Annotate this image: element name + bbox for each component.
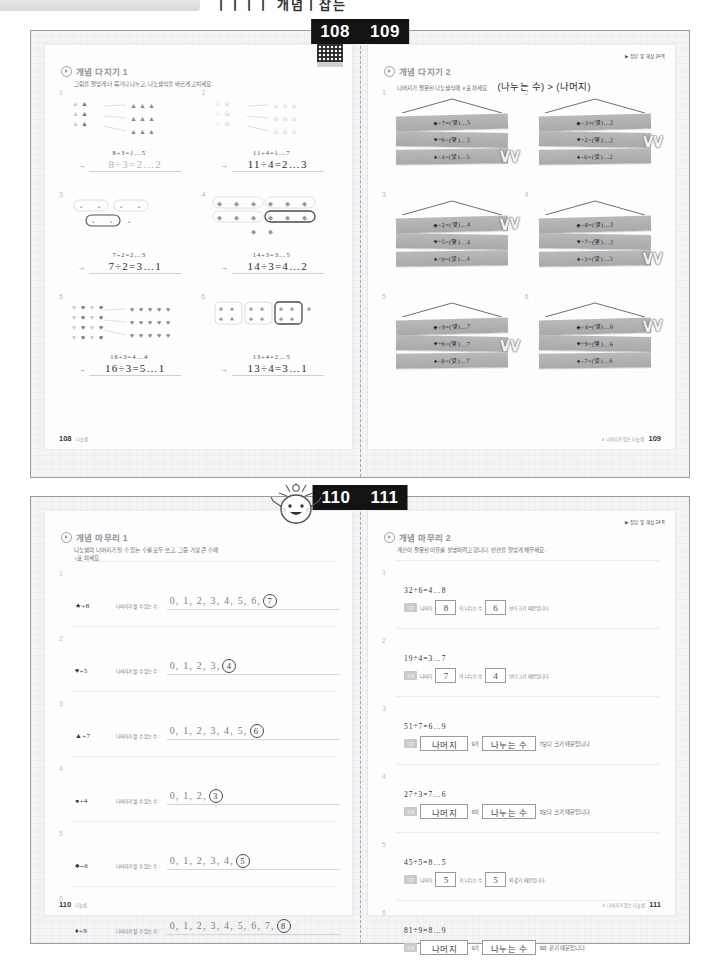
answer-field[interactable]: 0, 1, 2, 3, 4, 5, 6, 7 <box>167 594 340 610</box>
reason-tag: 이유 <box>404 603 417 612</box>
svg-text:▪: ▪ <box>80 204 82 210</box>
circled-answer[interactable]: 6 <box>250 724 264 738</box>
instruction-line-1: 나눗셈의 나머지가 될 수 있는 수를 모두 쓰고, 그중 가장 큰 수에 <box>74 546 340 554</box>
signboard-plank[interactable]: ♦÷8=(몇)…7 <box>396 352 508 369</box>
signboard-plank[interactable]: ♥÷6=(몇)…7∨∨ <box>396 335 508 352</box>
signboard-plank[interactable]: ♣÷8=(몇)…3 <box>539 215 651 233</box>
division-equation: 81÷9=8…9 <box>404 926 663 935</box>
corrected-equation-answer[interactable]: 7÷2=3…1 <box>89 260 181 274</box>
svg-text:☆: ☆ <box>215 110 221 117</box>
corrected-equation-answer[interactable]: 16÷3=5…1 <box>89 362 181 376</box>
reason-text: 나머지 <box>420 876 432 883</box>
circled-answer[interactable]: 4 <box>222 659 236 673</box>
signboard-plank[interactable]: ♦÷6=(몇)…2 <box>539 148 651 165</box>
signboard-plank[interactable]: ♣÷2=(몇)…4∨∨ <box>396 215 508 233</box>
svg-text:▲: ▲ <box>130 115 137 122</box>
given-equation: 7÷2=2…3 <box>63 251 196 258</box>
problem-cell: 3 ♣÷2=(몇)…4∨∨♥÷5=(몇)…4♦÷9=(몇)…4 <box>380 189 523 291</box>
check-mark-icon[interactable]: ∨∨ <box>498 146 518 165</box>
figure[interactable]: ☆☆☆☆☆☆☆☆☆☆☆☆☆☆☆ <box>206 91 339 149</box>
signboard-plank[interactable]: ♣÷7=(몇)…5 <box>396 113 508 131</box>
svg-text:◆: ◆ <box>285 200 290 207</box>
problem-row: 5 45÷5=8…5 이유 나머지5가 나누는 수5와 같기 때문입니다. <box>382 829 663 897</box>
corrected-equation-answer[interactable]: 13÷4=3…1 <box>232 362 324 376</box>
mascot-character-icon <box>270 479 322 527</box>
answer-field[interactable]: 0, 1, 2, 3, 4, 5, 6, 7, 8 <box>167 919 340 935</box>
given-equation: 13÷4=2…5 <box>206 353 339 360</box>
reason-row: 이유 나머지8이 나누는 수6보다 크기 때문입니다. <box>404 600 663 615</box>
problem-number: 1 <box>59 570 63 577</box>
answer-field[interactable]: 0, 1, 2, 3, 4, 5 <box>167 854 340 870</box>
signboard-plank[interactable]: ♦÷3=(몇)…3∨∨ <box>539 250 651 267</box>
problem-number: 4 <box>59 765 63 772</box>
svg-text:♥: ♥ <box>130 319 134 326</box>
circled-answer[interactable]: 8 <box>277 919 291 933</box>
check-mark-icon[interactable]: ∨∨ <box>641 248 661 267</box>
signboard-plank[interactable]: ♣÷9=(몇)…7 <box>396 317 508 335</box>
svg-text:◆: ◆ <box>268 228 273 235</box>
circled-answer[interactable]: 5 <box>236 854 250 868</box>
answer-blank[interactable]: 나머지 <box>420 940 468 955</box>
svg-text:☆: ☆ <box>282 102 288 109</box>
svg-text:▲: ▲ <box>148 102 155 109</box>
signboard-plank[interactable]: ♥÷6=(몇)…5 <box>396 131 508 148</box>
svg-text:◆: ◆ <box>234 214 239 221</box>
figure[interactable]: ▪▪▪▪▪▪▪ <box>63 193 196 251</box>
signboard-plank[interactable]: ♥÷5=(몇)…4 <box>396 233 508 250</box>
page-108: 개념 다지기 1 그림을 알맞게 더 묶거나 나누고, 나눗셈식을 바르게 고치… <box>45 45 352 449</box>
svg-text:◆: ◆ <box>268 214 273 221</box>
check-mark-icon[interactable]: ∨∨ <box>498 213 519 233</box>
answer-blank[interactable]: 5 <box>435 872 456 887</box>
section-title: 개념 다지기 1 <box>76 65 128 77</box>
answer-blank[interactable]: 나머지 <box>420 736 468 751</box>
signboard-plank[interactable]: ♣÷4=(몇)…6∨∨ <box>539 317 651 335</box>
signboard-roof <box>539 301 651 317</box>
answer-blank[interactable]: 4 <box>485 668 506 683</box>
answer-blank[interactable]: 나누는 수 <box>482 736 536 751</box>
signboard-plank[interactable]: ♦÷4=(몇)…5∨∨ <box>396 148 508 165</box>
figure[interactable]: ◆◆◆◆◆◆◆◆◆◆◆◆◆◆ <box>206 193 339 251</box>
svg-text:♥: ♥ <box>148 332 152 339</box>
reason-text: 9와 같기 때문입니다. <box>539 944 587 952</box>
svg-text:☆: ☆ <box>215 120 221 127</box>
signboard-plank[interactable]: ♦÷9=(몇)…4 <box>396 250 508 267</box>
row-divider <box>396 628 659 629</box>
answer-field[interactable]: 0, 1, 2, 3 <box>167 789 340 805</box>
signboard-plank[interactable]: ♥÷9=(몇)…6 <box>539 335 651 352</box>
spread-108-109: 108 109 개념 다지기 1 그림을 알맞게 더 묶거나 나누고, 나눗셈식… <box>30 30 690 478</box>
corrected-equation-answer[interactable]: 11÷4=2…3 <box>232 158 324 172</box>
signboard-plank[interactable]: ♣÷3=(몇)…2 <box>539 113 651 131</box>
figure[interactable]: ▲▲▲▲▲▲▲▲▲▲▲▲▲▲▲ <box>63 91 196 149</box>
answer-blank[interactable]: 7 <box>435 668 456 683</box>
figure[interactable]: ♥♥♥♥♥♥♥♥♥♥♥♥♥♥♥♥♥♥♥♥♥♥♥♥♥♥♥♥♥♥♥ <box>63 295 196 353</box>
answer-field[interactable]: 0, 1, 2, 3, 4, 5, 6 <box>167 724 340 740</box>
corrected-equation-answer[interactable]: 14÷3=4…2 <box>232 260 324 274</box>
svg-text:◆: ◆ <box>217 200 222 207</box>
answer-blank[interactable]: 나누는 수 <box>482 804 536 819</box>
signboard-plank[interactable]: ♥÷7=(몇)…3 <box>539 233 651 250</box>
answer-row: →11÷4=2…3 <box>206 158 339 172</box>
signboard-plank[interactable]: ♥÷2=(몇)…2∨∨ <box>539 131 651 148</box>
svg-text:▲: ▲ <box>81 100 88 107</box>
row-divider <box>73 561 336 562</box>
corrected-equation-answer[interactable]: 8÷3=2…2 <box>89 158 181 172</box>
circled-answer[interactable]: 7 <box>263 594 277 608</box>
signboard-plank[interactable]: ♦÷7=(몇)…6 <box>539 352 651 369</box>
figure[interactable]: ♣♣♣♣♣♣♣♣♣♣♣♣♣ <box>206 295 339 353</box>
problem-cell: 1 ♣÷7=(몇)…5♥÷6=(몇)…5♦÷4=(몇)…5∨∨ <box>380 87 523 189</box>
circled-answer[interactable]: 3 <box>209 789 223 803</box>
division-equation: 45÷5=8…5 <box>404 858 663 867</box>
answer-blank[interactable]: 나머지 <box>420 804 468 819</box>
answer-blank[interactable]: 5 <box>485 872 506 887</box>
answer-blank[interactable]: 6 <box>485 600 506 615</box>
svg-text:☆: ☆ <box>291 102 297 109</box>
svg-text:♣: ♣ <box>279 316 283 322</box>
grouping-diagram: ♣♣♣♣♣♣♣♣♣♣♣♣♣ <box>207 296 337 352</box>
answer-blank[interactable]: 나누는 수 <box>482 940 536 955</box>
reason-text: 보다 크기 때문입니다. <box>509 672 549 679</box>
svg-text:♥: ♥ <box>72 324 76 331</box>
svg-text:♥: ♥ <box>81 304 85 311</box>
check-mark-icon[interactable]: ∨∨ <box>640 315 661 335</box>
answer-blank[interactable]: 8 <box>435 600 456 615</box>
answer-field[interactable]: 0, 1, 2, 3, 4 <box>167 659 340 675</box>
